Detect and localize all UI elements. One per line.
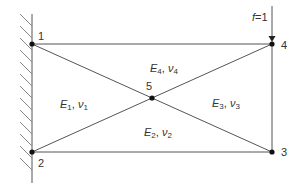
node-label-1: 1: [38, 30, 44, 42]
fem-diagram: 1 2 3 4 5 f=1 E1, ν1 E2, ν2 E3, ν3 E4, ν…: [0, 0, 308, 183]
node-1: [29, 41, 34, 46]
node-label-3: 3: [281, 146, 287, 158]
load-arrow: [269, 6, 276, 42]
arrow-down-icon: [269, 36, 276, 42]
node-label-5: 5: [146, 80, 152, 92]
load-label: f=1: [252, 11, 268, 23]
node-label-4: 4: [281, 39, 287, 51]
wall-hatching: [20, 14, 32, 170]
element-label-1: E1, ν1: [60, 98, 88, 112]
element-label-4: E4, ν4: [150, 62, 178, 76]
node-5: [149, 95, 154, 100]
fixed-wall-support: [20, 14, 32, 183]
node-2: [29, 149, 34, 154]
element-label-2: E2, ν2: [144, 126, 172, 140]
node-3: [269, 149, 274, 154]
node-label-2: 2: [38, 157, 44, 169]
node-4: [269, 41, 274, 46]
element-label-3: E3, ν3: [212, 97, 240, 111]
